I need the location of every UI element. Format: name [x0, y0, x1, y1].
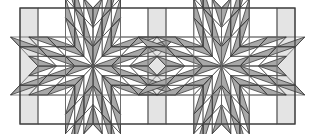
- sashing-strip: [20, 8, 38, 124]
- quilt-diagram: [0, 0, 309, 134]
- sashing-strip: [277, 8, 295, 124]
- sashing-strip: [148, 8, 166, 124]
